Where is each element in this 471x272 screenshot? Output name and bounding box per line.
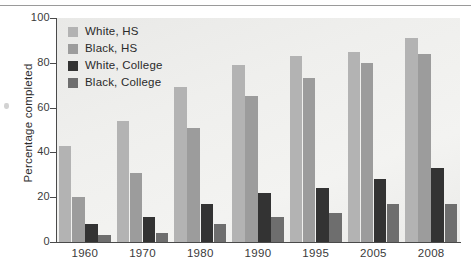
bar	[156, 233, 169, 242]
legend-swatch-icon	[68, 61, 78, 71]
y-axis-tick	[50, 197, 57, 198]
x-axis-tick-label: 1995	[288, 248, 344, 260]
bar	[316, 188, 329, 242]
y-axis-tick-label: 100	[6, 12, 50, 23]
bar	[174, 87, 187, 242]
y-axis-tick	[50, 18, 57, 19]
bar	[59, 146, 72, 242]
bar	[348, 52, 361, 242]
chart-figure: White, HSBlack, HSWhite, CollegeBlack, C…	[0, 0, 471, 272]
bar-group	[232, 18, 284, 242]
x-axis-tick-label: 1980	[172, 248, 228, 260]
bar-group	[405, 18, 457, 242]
legend-label: Black, College	[85, 77, 161, 89]
bar	[117, 121, 130, 242]
y-axis-title: Percentage completed	[22, 38, 34, 208]
bar	[187, 128, 200, 242]
chart-legend: White, HSBlack, HSWhite, CollegeBlack, C…	[68, 24, 163, 92]
y-axis-tick	[50, 242, 57, 243]
legend-item: Black, College	[68, 75, 163, 91]
legend-item: Black, HS	[68, 41, 163, 57]
y-axis-tick-label: 0	[6, 236, 50, 247]
bar	[245, 96, 258, 242]
bar	[445, 204, 458, 242]
legend-label: White, College	[85, 60, 163, 72]
bar	[143, 217, 156, 242]
bar	[303, 78, 316, 242]
bar-group	[290, 18, 342, 242]
bar	[258, 193, 271, 242]
x-axis-tick-label: 1970	[115, 248, 171, 260]
legend-item: White, HS	[68, 24, 163, 40]
y-axis-tick	[50, 63, 57, 64]
bar	[387, 204, 400, 242]
y-axis-line	[56, 18, 57, 243]
bar	[130, 173, 143, 242]
bar	[431, 168, 444, 242]
bar	[232, 65, 245, 242]
page-rule	[0, 5, 471, 6]
bar	[361, 63, 374, 242]
x-axis-tick-label: 1990	[230, 248, 286, 260]
legend-swatch-icon	[68, 78, 78, 88]
bar	[98, 235, 111, 242]
plot-area: White, HSBlack, HSWhite, CollegeBlack, C…	[56, 18, 460, 242]
bar	[72, 197, 85, 242]
bar	[405, 38, 418, 242]
legend-label: White, HS	[85, 26, 139, 38]
bar	[271, 217, 284, 242]
bar-group	[174, 18, 226, 242]
x-axis-tick-label: 2008	[403, 248, 459, 260]
bar	[201, 204, 214, 242]
y-axis-tick	[50, 152, 57, 153]
x-axis-tick-label: 1960	[57, 248, 113, 260]
bar	[374, 179, 387, 242]
legend-swatch-icon	[68, 44, 78, 54]
bar	[290, 56, 303, 242]
bar	[418, 54, 431, 242]
bar-group	[348, 18, 400, 242]
x-axis-line	[56, 242, 461, 243]
legend-item: White, College	[68, 58, 163, 74]
bar	[214, 224, 227, 242]
bar	[329, 213, 342, 242]
x-axis-tick-label: 2005	[345, 248, 401, 260]
bar	[85, 224, 98, 242]
legend-label: Black, HS	[85, 43, 137, 55]
y-axis-tick	[50, 108, 57, 109]
legend-swatch-icon	[68, 27, 78, 37]
